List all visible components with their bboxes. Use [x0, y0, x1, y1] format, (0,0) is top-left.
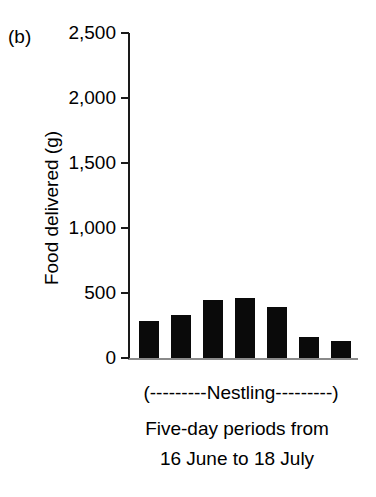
x-axis-label-line-2: 16 June to 18 July: [104, 449, 370, 468]
y-tick-label: 1,000: [68, 217, 116, 239]
y-tick-label: 500: [84, 282, 116, 304]
y-tick-mark: [121, 292, 129, 294]
bar: [139, 321, 159, 358]
y-tick-mark: [121, 357, 129, 359]
y-tick-label: 2,500: [68, 22, 116, 44]
bar: [203, 300, 223, 358]
x-axis-label-line-1: Five-day periods from: [104, 419, 370, 438]
y-tick-mark: [121, 162, 129, 164]
y-tick-mark: [121, 32, 129, 34]
figure-panel-b: (b) Food delivered (g) 05001,0001,5002,0…: [0, 0, 376, 497]
bar: [171, 315, 191, 358]
bar: [299, 337, 319, 358]
nestling-bracket-annotation: (---------Nestling---------): [112, 383, 370, 402]
bar: [235, 298, 255, 358]
y-tick-label: 0: [105, 347, 116, 369]
y-axis-spine: [128, 33, 130, 358]
y-axis-label: Food delivered (g): [38, 98, 64, 318]
plot-area: 05001,0001,5002,0002,500: [128, 33, 358, 358]
y-tick-mark: [121, 227, 129, 229]
bar: [267, 307, 287, 358]
y-tick-mark: [121, 97, 129, 99]
bar: [331, 341, 351, 358]
y-tick-label: 1,500: [68, 152, 116, 174]
x-axis-baseline: [128, 358, 358, 360]
panel-label: (b): [8, 27, 31, 46]
y-axis-label-text: Food delivered (g): [42, 131, 61, 285]
y-tick-label: 2,000: [68, 87, 116, 109]
